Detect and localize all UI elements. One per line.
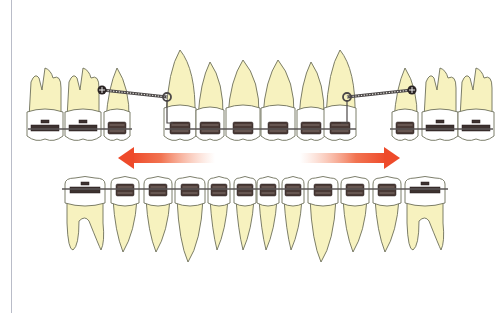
tube-hook	[436, 120, 444, 123]
lower-tooth-6	[234, 177, 256, 251]
lower-tooth-3	[144, 177, 172, 253]
bracket	[396, 122, 414, 134]
arrow-shaft	[132, 153, 215, 163]
lower-tooth-7	[257, 177, 279, 251]
crown	[458, 109, 494, 140]
molar-tube	[462, 125, 490, 131]
root	[177, 199, 203, 262]
crown	[65, 109, 101, 140]
bracket	[330, 122, 350, 134]
tube-hook	[421, 182, 429, 185]
movement-arrows	[118, 147, 400, 169]
upper-left-canine-tooth	[164, 50, 196, 140]
bracket	[268, 122, 288, 134]
lower-tooth-2	[111, 177, 139, 253]
lower-arch	[62, 177, 448, 263]
tube-hook	[81, 182, 89, 185]
molar-tube	[426, 125, 454, 131]
bracket	[260, 184, 276, 196]
bracket	[149, 184, 167, 196]
arrow-shaft	[300, 153, 386, 163]
bracket	[237, 184, 253, 196]
crown	[27, 109, 63, 140]
lower-tooth-8	[282, 177, 304, 251]
bracket	[233, 122, 253, 134]
bracket	[116, 184, 134, 196]
bracket	[211, 184, 227, 196]
bracket	[108, 122, 126, 134]
root	[259, 199, 277, 250]
orthodontic-diagram: Orthodontic space closure with sliding m…	[0, 0, 499, 313]
bracket	[200, 122, 220, 134]
bracket	[314, 184, 332, 196]
root	[113, 199, 137, 252]
root	[210, 199, 228, 250]
molar-tube	[69, 125, 97, 131]
bracket	[181, 184, 199, 196]
root	[375, 199, 399, 252]
bracket	[346, 184, 364, 196]
arrow-head	[384, 147, 400, 169]
lower-tooth-12	[405, 177, 445, 251]
root	[146, 199, 170, 252]
tube-hook	[41, 120, 49, 123]
right-movement-arrow	[300, 147, 400, 169]
arrow-head	[118, 147, 134, 169]
lower-tooth-11	[373, 177, 401, 253]
dental-illustration	[0, 0, 499, 313]
lower-tooth-5	[208, 177, 230, 251]
molar-tube	[31, 125, 59, 131]
tube-hook	[79, 120, 87, 123]
page-margin-line	[11, 0, 12, 313]
molar-tube	[70, 187, 100, 193]
root	[310, 199, 336, 262]
upper-arch	[27, 50, 494, 140]
lower-tooth-10	[341, 177, 369, 253]
root	[236, 199, 254, 250]
root	[284, 199, 302, 250]
root	[343, 199, 367, 252]
bracket	[378, 184, 396, 196]
bracket	[301, 122, 321, 134]
crown	[422, 109, 458, 140]
molar-tube	[410, 187, 440, 193]
root	[407, 199, 444, 250]
lower-tooth-1	[65, 177, 105, 251]
bracket	[285, 184, 301, 196]
bracket	[170, 122, 190, 134]
root	[67, 199, 104, 250]
tube-hook	[472, 120, 480, 123]
left-movement-arrow	[118, 147, 215, 169]
